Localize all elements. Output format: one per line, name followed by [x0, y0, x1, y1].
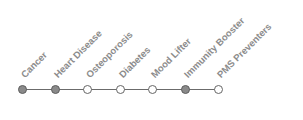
timeline-node-immunity-booster[interactable] [181, 85, 190, 94]
timeline-label-cancer: Cancer [19, 50, 48, 79]
timeline-node-mood-lifter[interactable] [148, 85, 157, 94]
timeline-node-pms-preventers[interactable] [214, 85, 223, 94]
timeline-node-diabetes[interactable] [116, 85, 125, 94]
timeline-label-immunity-booster: Immunity Booster [182, 16, 246, 80]
timeline-label-diabetes: Diabetes [117, 45, 152, 80]
benefit-timeline: Cancer Heart Disease Osteoporosis Diabet… [0, 0, 303, 120]
timeline-node-cancer[interactable] [18, 85, 27, 94]
timeline-node-osteoporosis[interactable] [83, 85, 92, 94]
timeline-node-heart-disease[interactable] [51, 85, 60, 94]
